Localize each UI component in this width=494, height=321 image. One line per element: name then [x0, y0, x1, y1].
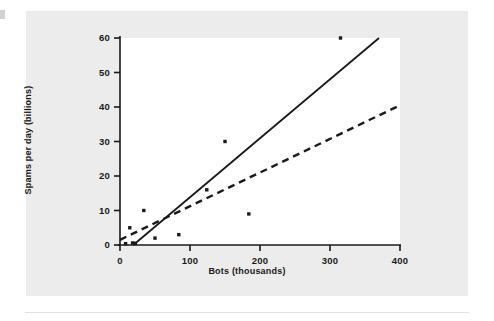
- y-axis-tick-label: 30: [74, 136, 110, 147]
- y-axis-tick-label: 60: [74, 32, 110, 43]
- data-point: [128, 226, 131, 229]
- data-point: [205, 188, 208, 191]
- data-point: [142, 209, 145, 212]
- figure: 0102030405060 0100200300400 Bots (thousa…: [0, 0, 494, 321]
- data-point: [177, 233, 180, 236]
- y-axis-ticks: [114, 38, 120, 245]
- plot-area: [120, 38, 400, 245]
- data-point: [223, 140, 226, 143]
- y-axis-tick-label: 10: [74, 205, 110, 216]
- x-axis-tick-label: 100: [170, 255, 210, 266]
- y-axis-title: Spams per day (billions): [23, 60, 33, 220]
- x-axis-tick-label: 400: [380, 255, 420, 266]
- data-point: [153, 236, 156, 239]
- page-divider-rule: [25, 312, 469, 313]
- x-axis-title: Bots (thousands): [0, 266, 494, 276]
- x-axis-ticks: [120, 245, 400, 251]
- y-axis-tick-label: 50: [74, 67, 110, 78]
- x-axis-tick-label: 300: [310, 255, 350, 266]
- x-axis-tick-label: 0: [100, 255, 140, 266]
- data-point: [134, 242, 137, 245]
- y-axis-tick-label: 0: [74, 239, 110, 250]
- data-point: [247, 212, 250, 215]
- y-axis-tick-label: 40: [74, 101, 110, 112]
- y-axis-tick-label: 20: [74, 170, 110, 181]
- data-point: [124, 242, 127, 245]
- data-point: [339, 36, 342, 39]
- x-axis-tick-label: 200: [240, 255, 280, 266]
